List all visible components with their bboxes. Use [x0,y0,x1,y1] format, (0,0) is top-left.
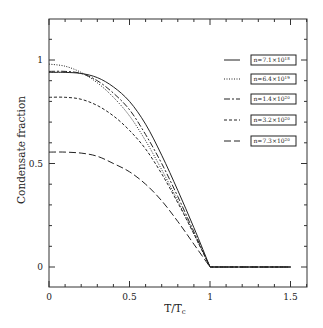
legend-item: n=7.1×1018 [224,55,296,65]
tick-labels: 00.511.500.51 [29,55,298,302]
x-tick-label: 1 [207,292,213,302]
legend-item: n=7.3×1020 [224,136,296,146]
legend-item: n=1.4×1020 [224,94,296,104]
y-tick-label: 0 [37,262,43,272]
x-tick-label: 0.5 [122,292,137,302]
legend-item: n=3.2×1020 [224,115,296,125]
y-tick-label: 0.5 [29,159,44,169]
x-axis-title: T/Tc [164,302,186,316]
condensate-fraction-chart: 00.511.500.51 n=7.1×1018n=6.4×1019n=1.4×… [0,0,323,328]
y-axis-title: Condensate fraction [15,96,27,204]
series-curve-5 [49,152,291,267]
legend-item: n=6.4×1019 [224,74,296,84]
y-tick-label: 1 [37,55,43,65]
legend: n=7.1×1018n=6.4×1019n=1.4×1020n=3.2×1020… [224,55,296,146]
x-tick-label: 0 [46,292,52,302]
x-tick-label: 1.5 [283,292,298,302]
